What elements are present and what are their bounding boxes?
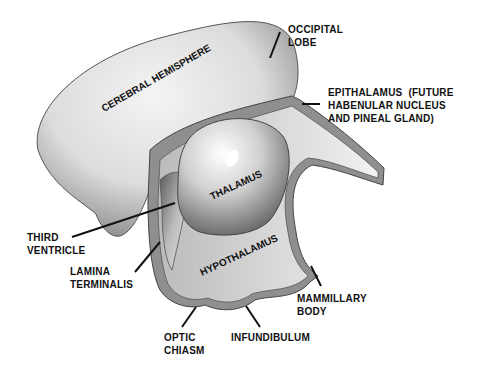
epithalamus-label: EPITHALAMUS (FUTURE HABENULAR NUCLEUS AN… — [328, 86, 454, 125]
mammillary-body-label: MAMMILLARY BODY — [297, 292, 367, 318]
infundibulum-label: INFUNDIBULUM — [231, 331, 310, 344]
third-ventricle-label: THIRD VENTRICLE — [27, 231, 85, 257]
lamina-terminalis-label: LAMINA TERMINALIS — [70, 265, 133, 291]
optic-chiasm-label: OPTIC CHIASM — [164, 331, 205, 357]
occipital-lobe-label: OCCIPITAL LOBE — [288, 23, 343, 49]
brain-diagram: CEREBRAL HEMISPHERE THALAMUS HYPOTHALAMU… — [0, 0, 478, 373]
